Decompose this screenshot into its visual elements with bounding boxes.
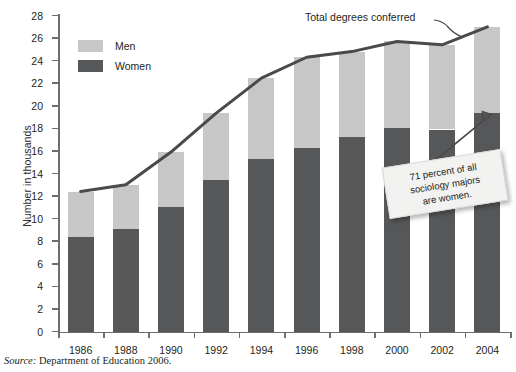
y-tick-16: 16 <box>52 150 58 152</box>
y-tick-label-2: 2 <box>37 303 43 315</box>
bar-segment-women-1992 <box>203 180 229 331</box>
y-tick-2: 2 <box>52 308 58 310</box>
chart-figure: Number in thousands 02468101214161820222… <box>0 0 516 372</box>
x-tick-0 <box>58 332 60 338</box>
x-tick-7 <box>374 332 376 338</box>
bar-segment-women-1996 <box>294 148 320 332</box>
bar-1988 <box>113 185 139 332</box>
x-tick-4 <box>239 332 241 338</box>
y-tick-label-6: 6 <box>37 258 43 270</box>
y-tick-18: 18 <box>52 128 58 130</box>
legend-item-men: Men <box>78 38 151 54</box>
legend-label-women: Women <box>115 60 151 72</box>
x-tick-9 <box>465 332 467 338</box>
y-tick-label-10: 10 <box>31 213 43 225</box>
bar-segment-men-2000 <box>384 41 410 128</box>
bar-segment-women-1990 <box>158 207 184 331</box>
source-note: Source: Department of Education 2006. <box>4 355 171 366</box>
legend-label-men: Men <box>115 40 135 52</box>
y-tick-label-0: 0 <box>37 326 43 338</box>
bar-segment-men-1998 <box>339 52 365 138</box>
y-tick-24: 24 <box>52 60 58 62</box>
y-tick-label-20: 20 <box>31 100 43 112</box>
bar-segment-women-2004 <box>474 113 500 332</box>
legend-swatch-women-icon <box>78 60 103 72</box>
bar-segment-men-1986 <box>68 192 94 237</box>
source-prefix: Source: <box>4 355 36 366</box>
bar-segment-men-1994 <box>248 78 274 159</box>
y-tick-label-16: 16 <box>31 145 43 157</box>
bar-segment-women-1986 <box>68 237 94 332</box>
x-tick-2 <box>148 332 150 338</box>
bar-segment-men-1990 <box>158 152 184 207</box>
bar-segment-men-2004 <box>474 27 500 113</box>
x-tick-8 <box>420 332 422 338</box>
bar-segment-men-1996 <box>294 57 320 147</box>
y-tick-label-24: 24 <box>31 55 43 67</box>
y-tick-22: 22 <box>52 82 58 84</box>
y-tick-8: 8 <box>52 240 58 242</box>
legend-item-women: Women <box>78 58 151 74</box>
x-tick-3 <box>194 332 196 338</box>
y-tick-label-14: 14 <box>31 168 43 180</box>
bar-segment-men-1992 <box>203 113 229 180</box>
y-tick-label-18: 18 <box>31 122 43 134</box>
bar-1996 <box>294 57 320 331</box>
y-tick-20: 20 <box>52 105 58 107</box>
x-tick-10 <box>510 332 512 338</box>
legend-swatch-men-icon <box>78 40 103 52</box>
y-tick-4: 4 <box>52 286 58 288</box>
bar-1994 <box>248 78 274 331</box>
x-tick-6 <box>329 332 331 338</box>
bar-1998 <box>339 52 365 332</box>
x-tick-5 <box>284 332 286 338</box>
total-line-annotation-label: Total degrees conferred <box>305 11 415 23</box>
y-tick-label-4: 4 <box>37 280 43 292</box>
y-tick-10: 10 <box>52 218 58 220</box>
bar-segment-women-1994 <box>248 159 274 332</box>
y-tick-26: 26 <box>52 37 58 39</box>
bar-segment-women-2000 <box>384 128 410 331</box>
x-tick-1 <box>103 332 105 338</box>
y-tick-12: 12 <box>52 195 58 197</box>
y-tick-label-28: 28 <box>31 10 43 22</box>
bar-segment-men-1988 <box>113 185 139 230</box>
y-tick-label-26: 26 <box>31 32 43 44</box>
legend: Men Women <box>78 38 151 78</box>
y-tick-6: 6 <box>52 263 58 265</box>
bar-segment-women-1988 <box>113 229 139 331</box>
bar-1992 <box>203 113 229 331</box>
source-text: Department of Education 2006. <box>39 355 171 366</box>
bar-segment-women-1998 <box>339 137 365 331</box>
y-tick-28: 28 <box>52 15 58 17</box>
y-tick-label-8: 8 <box>37 235 43 247</box>
y-tick-label-12: 12 <box>31 190 43 202</box>
bar-segment-men-2002 <box>429 45 455 130</box>
x-tick-label-2004: 2004 <box>457 344 516 356</box>
y-tick-label-22: 22 <box>31 77 43 89</box>
bar-1986 <box>68 192 94 332</box>
bar-1990 <box>158 152 184 331</box>
y-axis-line <box>58 14 60 333</box>
y-tick-14: 14 <box>52 173 58 175</box>
